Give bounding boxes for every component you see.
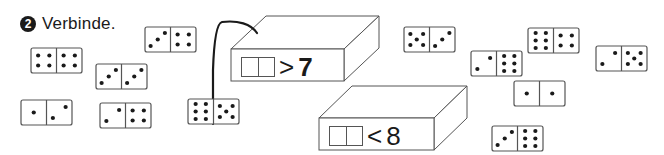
pip-icon <box>51 116 55 120</box>
pip-icon <box>187 32 191 36</box>
pip-icon <box>117 108 121 112</box>
pip-icon <box>163 31 167 35</box>
pip-icon <box>224 109 228 113</box>
pip-icon <box>550 91 554 95</box>
pip-icon <box>73 53 77 57</box>
pip-icon <box>131 118 135 122</box>
pip-icon <box>639 51 643 55</box>
pip-icon <box>626 51 630 55</box>
pip-icon <box>204 102 208 106</box>
pip-icon <box>502 61 506 65</box>
pip-icon <box>510 130 514 134</box>
domino-5-3[interactable] <box>404 27 455 52</box>
pip-icon <box>204 117 208 121</box>
box-operator: > <box>279 54 294 80</box>
pip-icon <box>488 56 492 60</box>
box-label-greater-than: > 7 <box>241 54 313 80</box>
domino-1-2[interactable] <box>21 100 72 125</box>
pip-icon <box>62 53 66 57</box>
pip-icon <box>512 54 516 58</box>
pip-icon <box>533 144 537 148</box>
pip-icon <box>73 63 77 67</box>
pip-icon <box>502 69 506 73</box>
pip-icon <box>218 115 222 119</box>
pip-icon <box>47 63 51 67</box>
pip-icon <box>156 37 160 41</box>
pip-icon <box>408 32 412 36</box>
pip-icon <box>447 31 451 35</box>
answer-slot[interactable] <box>241 57 275 77</box>
domino-6-4[interactable] <box>528 28 579 53</box>
pip-icon <box>176 32 180 36</box>
pip-icon <box>626 62 630 66</box>
pip-icon <box>139 68 143 72</box>
domino-2-4[interactable] <box>100 103 151 128</box>
pip-icon <box>47 53 51 57</box>
pip-icon <box>440 37 444 41</box>
pip-icon <box>408 43 412 47</box>
pip-icon <box>415 37 419 41</box>
pip-icon <box>559 43 563 47</box>
domino-2-5[interactable] <box>596 46 647 71</box>
pip-icon <box>533 136 537 140</box>
pip-icon <box>194 109 198 113</box>
pip-icon <box>176 42 180 46</box>
pip-icon <box>512 61 516 65</box>
pip-icon <box>32 110 36 114</box>
answer-slot[interactable] <box>329 126 363 146</box>
box-value: 7 <box>298 54 312 80</box>
box-operator: < <box>367 123 382 149</box>
pip-icon <box>525 91 529 95</box>
pip-icon <box>36 53 40 57</box>
pip-icon <box>142 108 146 112</box>
domino-3-3[interactable] <box>96 64 147 89</box>
pip-icon <box>534 38 538 42</box>
box-value: 8 <box>386 123 400 149</box>
pip-icon <box>142 118 146 122</box>
pip-icon <box>104 119 108 123</box>
pip-icon <box>613 51 617 55</box>
pip-icon <box>421 32 425 36</box>
pip-icon <box>639 62 643 66</box>
domino-3-4[interactable] <box>145 27 196 52</box>
pip-icon <box>534 31 538 35</box>
pip-icon <box>544 31 548 35</box>
pip-icon <box>544 46 548 50</box>
pip-icon <box>204 109 208 113</box>
pip-icon <box>544 38 548 42</box>
domino-6-5[interactable] <box>188 99 239 124</box>
pip-icon <box>125 81 129 85</box>
pip-icon <box>194 117 198 121</box>
pip-icon <box>600 62 604 66</box>
pip-icon <box>523 136 527 140</box>
domino-1-1[interactable] <box>514 81 565 106</box>
pip-icon <box>107 74 111 78</box>
pip-icon <box>523 129 527 133</box>
domino-4-4[interactable] <box>31 48 82 73</box>
pip-icon <box>421 43 425 47</box>
pip-icon <box>149 44 153 48</box>
pip-icon <box>62 63 66 67</box>
pip-icon <box>131 108 135 112</box>
pip-icon <box>496 143 500 147</box>
pip-icon <box>512 69 516 73</box>
pip-icon <box>570 43 574 47</box>
pip-icon <box>533 129 537 133</box>
pip-icon <box>523 144 527 148</box>
domino-3-6[interactable] <box>492 126 543 151</box>
pip-icon <box>559 33 563 37</box>
box-label-less-than: < 8 <box>329 123 401 149</box>
pip-icon <box>632 56 636 60</box>
pip-icon <box>231 115 235 119</box>
pip-icon <box>36 63 40 67</box>
pip-icon <box>503 136 507 140</box>
pip-icon <box>502 54 506 58</box>
pip-icon <box>132 74 136 78</box>
pip-icon <box>114 68 118 72</box>
pip-icon <box>534 46 538 50</box>
pip-icon <box>218 104 222 108</box>
pip-icon <box>231 104 235 108</box>
domino-2-6[interactable] <box>471 51 522 76</box>
pip-icon <box>64 105 68 109</box>
pip-icon <box>570 33 574 37</box>
